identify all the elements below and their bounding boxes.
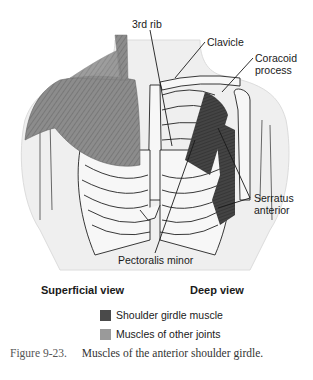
label-pectoralis-minor: Pectoralis minor bbox=[118, 254, 193, 266]
legend-item-shoulder-girdle: Shoulder girdle muscle bbox=[100, 309, 223, 321]
label-3rd-rib: 3rd rib bbox=[132, 18, 162, 30]
legend-label: Muscles of other joints bbox=[116, 328, 220, 340]
superficial-view-title: Superficial view bbox=[41, 284, 124, 296]
label-coracoid-line2: process bbox=[255, 64, 292, 76]
torso-illustration bbox=[0, 0, 313, 280]
label-serratus-line1: Serratus bbox=[254, 192, 294, 204]
legend-swatch-dark bbox=[100, 310, 111, 321]
legend-label: Shoulder girdle muscle bbox=[116, 309, 223, 321]
figure-number: Figure 9-23. bbox=[10, 347, 67, 359]
figure-caption: Figure 9-23. Muscles of the anterior sho… bbox=[10, 347, 263, 359]
deep-view-title: Deep view bbox=[190, 284, 244, 296]
caption-text: Muscles of the anterior shoulder girdle. bbox=[82, 347, 263, 359]
legend-item-other-joints: Muscles of other joints bbox=[100, 328, 220, 340]
label-serratus-line2: anterior bbox=[254, 204, 290, 216]
anatomy-figure: 3rd rib Clavicle Coracoid process Serrat… bbox=[0, 0, 313, 380]
label-clavicle: Clavicle bbox=[207, 36, 244, 48]
legend-swatch-light bbox=[100, 329, 111, 340]
label-coracoid-line1: Coracoid bbox=[255, 52, 297, 64]
